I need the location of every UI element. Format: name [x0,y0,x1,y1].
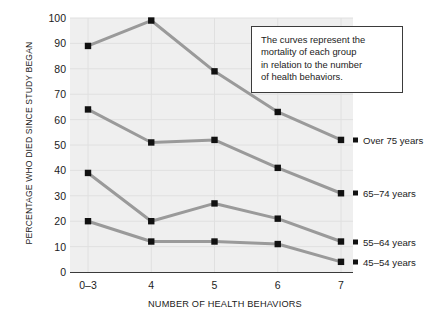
data-point-marker [211,68,217,74]
series-marker-swatch-icon [353,191,358,196]
data-point-marker [211,238,217,244]
annotation-line: in relation to the number [261,59,394,71]
series-label-text: 55–64 years [363,236,416,247]
data-point-marker [275,241,281,247]
y-tick-label: 90 [26,37,66,49]
series-end-label: Over 75 years [353,134,423,145]
y-tick-label: 50 [26,139,66,151]
y-tick-label: 30 [26,190,66,202]
chart-figure: PERCENTAGE WHO DIED SINCE STUDY BEGAN 01… [0,0,425,323]
series-marker-swatch-icon [353,259,358,264]
annotation-line: mortality of each group [261,46,394,58]
series-label-text: 45–54 years [363,256,416,267]
data-point-marker [85,218,91,224]
series-marker-swatch-icon [353,239,358,244]
series-end-label: 55–64 years [353,236,416,247]
x-tick-label: 0–3 [58,279,118,291]
annotation-line: of health behaviors. [261,71,394,83]
y-tick-label: 80 [26,63,66,75]
series-end-label: 45–54 years [353,256,416,267]
data-point-marker [148,218,154,224]
data-point-marker [338,238,344,244]
y-tick-label: 40 [26,164,66,176]
x-tick-label: 6 [248,279,308,291]
x-tick-label: 5 [185,279,245,291]
data-point-marker [275,165,281,171]
data-point-marker [85,43,91,49]
data-point-marker [275,215,281,221]
data-point-marker [275,109,281,115]
y-tick-label: 70 [26,88,66,100]
y-tick-label: 20 [26,215,66,227]
x-axis-tick-labels: 0–34567 [70,279,353,295]
data-point-marker [148,238,154,244]
y-tick-label: 100 [26,12,66,24]
data-point-marker [211,200,217,206]
data-point-marker [338,137,344,143]
x-tick-label: 4 [121,279,181,291]
series-label-text: 65–74 years [363,188,416,199]
series-end-label: 65–74 years [353,188,416,199]
data-point-marker [85,106,91,112]
data-point-marker [338,259,344,265]
series-label-text: Over 75 years [363,134,423,145]
annotation-curves-explanation: The curves represent themortality of eac… [251,26,403,93]
data-point-marker [148,17,154,23]
x-tick-label: 7 [311,279,371,291]
y-tick-label: 0 [26,266,66,278]
y-tick-label: 10 [26,241,66,253]
x-axis-title: NUMBER OF HEALTH BEHAVIORS [70,299,380,309]
series-marker-swatch-icon [353,137,358,142]
annotation-line: The curves represent the [261,34,394,46]
data-point-marker [338,190,344,196]
data-point-marker [85,170,91,176]
y-tick-label: 60 [26,114,66,126]
data-point-marker [211,137,217,143]
data-point-marker [148,139,154,145]
y-axis-tick-labels: 0102030405060708090100 [22,18,66,272]
